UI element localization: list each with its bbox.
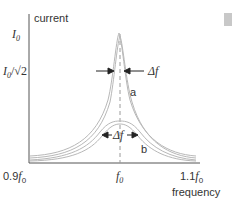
- x-tick-f0: f0: [116, 169, 123, 185]
- curve-b-label: b: [141, 143, 147, 155]
- x-axis-label: frequency: [172, 186, 221, 198]
- delta-f-a-label: Δf: [147, 64, 160, 78]
- resonance-chart: current I0 I0/√2 0.9f0 f0 1.1f0 frequenc…: [0, 0, 232, 201]
- y-axis-label: current: [34, 12, 68, 24]
- y-tick-I0-root2: I0/√2: [2, 64, 27, 80]
- delta-f-b-label: Δf: [112, 128, 125, 142]
- y-tick-I0: I0: [11, 27, 20, 43]
- x-tick-1.1f0: 1.1f0: [180, 169, 204, 185]
- corner-marker: [224, 13, 232, 26]
- curve-a-label: a: [130, 86, 137, 98]
- x-tick-0.9f0: 0.9f0: [3, 169, 27, 185]
